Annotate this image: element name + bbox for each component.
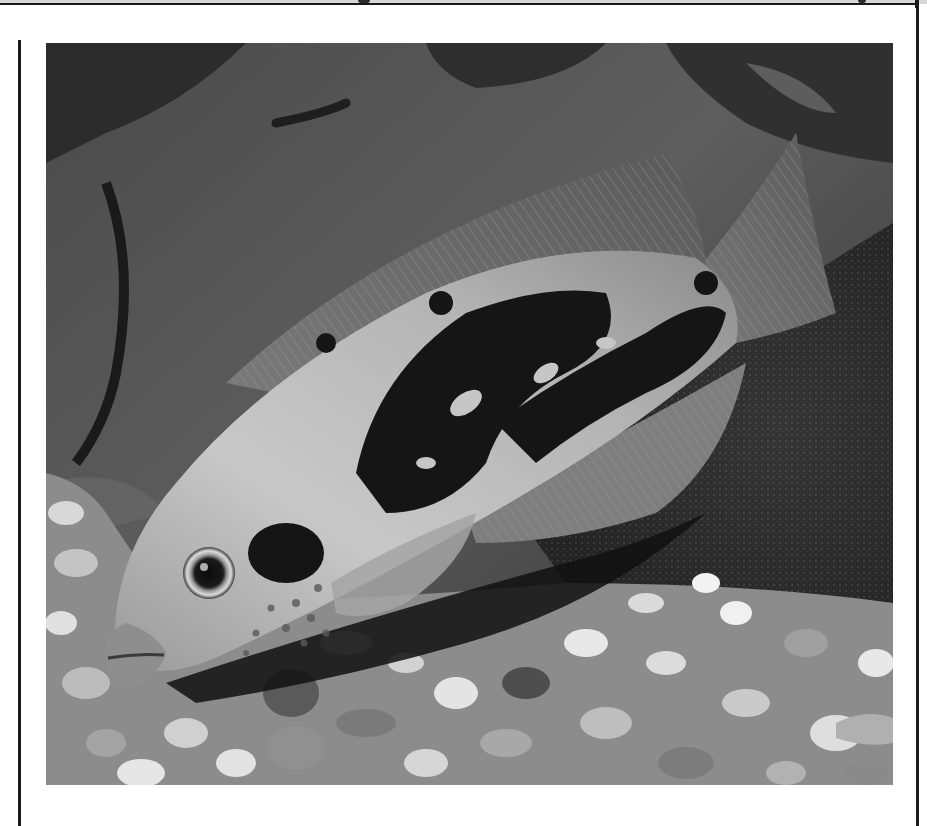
- fish-photo-illustration: [46, 43, 893, 785]
- right-margin-rule: [916, 0, 919, 826]
- fish-eye: [183, 547, 235, 599]
- fish-photograph: [46, 43, 893, 785]
- fish-eye-highlight: [200, 563, 208, 571]
- left-margin-rule: [18, 40, 21, 826]
- header-rule: [0, 3, 915, 5]
